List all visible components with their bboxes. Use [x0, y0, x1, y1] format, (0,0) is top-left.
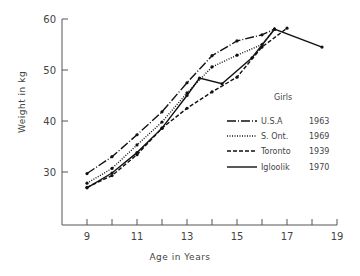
data-point [235, 39, 238, 42]
data-point [210, 65, 213, 68]
data-point [235, 54, 238, 57]
data-point [85, 186, 88, 189]
series-u-s-a [85, 28, 276, 176]
data-point [235, 76, 238, 79]
x-tick-label: 17 [281, 231, 294, 242]
data-point [85, 182, 88, 185]
series-line [87, 29, 275, 173]
y-tick-label: 30 [43, 167, 56, 178]
x-tick-label: 11 [131, 231, 144, 242]
data-point [198, 77, 201, 80]
legend-entry-igloolik: Igloolik 1970 [227, 163, 329, 172]
data-point [160, 127, 163, 130]
legend-label: Toronto [260, 147, 291, 156]
data-point [160, 110, 163, 113]
data-point [135, 151, 138, 154]
x-tick-label: 9 [84, 231, 90, 242]
legend-year: 1970 [309, 163, 329, 172]
legend-year: 1939 [309, 147, 329, 156]
data-point [135, 143, 138, 146]
data-point [135, 133, 138, 136]
data-point [260, 33, 263, 36]
data-point [210, 54, 213, 57]
data-point [110, 155, 113, 158]
legend-label: S. Ont. [261, 132, 288, 141]
data-point [320, 45, 323, 48]
x-axis-title: Age in Years [149, 252, 210, 262]
axes: 30405060 91113151719 [43, 14, 343, 242]
legend-year: 1969 [309, 132, 329, 141]
line-chart: 30405060 91113151719 Age in Years Weight… [0, 0, 360, 276]
data-point [110, 167, 113, 170]
y-tick-label: 60 [43, 14, 56, 25]
y-axis-title: Weight in kg [17, 71, 27, 133]
data-point [110, 171, 113, 174]
data-point [285, 27, 288, 30]
data-point [273, 28, 276, 31]
x-ticks: 91113151719 [84, 219, 344, 242]
data-point [85, 172, 88, 175]
y-tick-label: 50 [43, 65, 56, 76]
legend-year: 1963 [309, 117, 329, 126]
data-point [250, 56, 253, 59]
legend: Girls U.S.A 1963 S. Ont. 1969 Toronto 19… [227, 93, 329, 172]
series-s-ont [85, 28, 276, 185]
legend-entry-toronto: Toronto 1939 [227, 147, 329, 156]
y-tick-label: 40 [43, 116, 56, 127]
x-tick-label: 19 [331, 231, 344, 242]
x-tick-label: 13 [181, 231, 194, 242]
legend-label: Igloolik [261, 163, 290, 172]
y-ticks: 30405060 [43, 14, 68, 178]
data-point [210, 90, 213, 93]
data-point [185, 94, 188, 97]
data-point [185, 81, 188, 84]
series-line [87, 29, 275, 183]
x-tick-label: 15 [231, 231, 244, 242]
data-point [160, 120, 163, 123]
legend-entry-s-ont: S. Ont. 1969 [227, 132, 329, 141]
data-point [185, 107, 188, 110]
data-point [220, 82, 223, 85]
legend-entry-usa: U.S.A 1963 [227, 117, 329, 126]
legend-title: Girls [274, 93, 292, 102]
legend-label: U.S.A [261, 117, 283, 126]
